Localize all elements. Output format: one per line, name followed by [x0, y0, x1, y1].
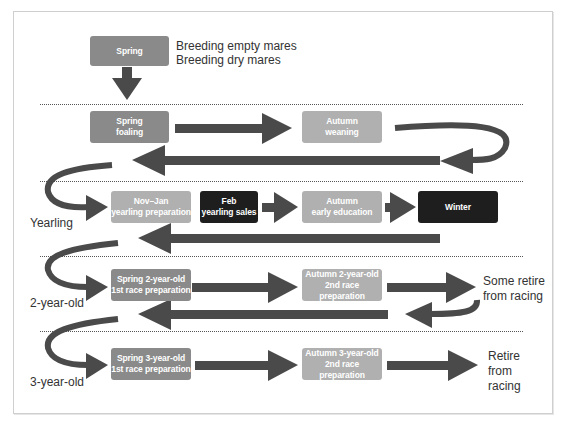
- box-line2: 2nd race preparation: [302, 280, 382, 302]
- arrow-left-icon: [138, 223, 440, 254]
- curved-arrowhead-icon: [440, 148, 473, 174]
- box-line2: weaning: [325, 127, 358, 138]
- box-spring-2yo: Spring 2-year-old 1st race preparation: [111, 269, 191, 301]
- box-spring-foaling: Spring foaling: [90, 111, 169, 143]
- box-yearling-preparation: Nov–Jan yearling preparation: [111, 191, 191, 223]
- row-label-3yo: 3-year-old: [30, 376, 84, 389]
- curved-arrow-icon: [395, 125, 506, 160]
- curved-arrowhead-icon: [86, 353, 108, 379]
- row-label-2yo: 2-year-old: [30, 297, 84, 310]
- box-line2: 2nd race preparation: [302, 359, 382, 381]
- box-line2: 1st race preparation: [111, 364, 190, 375]
- box-autumn-3yo: Autumn 3-year-old 2nd race preparation: [302, 348, 382, 380]
- box-autumn-2yo: Autumn 2-year-old 2nd race preparation: [302, 269, 382, 301]
- box-line1: Nov–Jan: [134, 196, 169, 207]
- box-line1: Autumn: [326, 116, 358, 127]
- breeding-note: Breeding empty mares Breeding dry mares: [176, 39, 297, 67]
- box-yearling-sales: Feb yearling sales: [200, 191, 258, 223]
- arrow-right-icon: [195, 350, 298, 381]
- curved-arrow-icon: [48, 165, 112, 207]
- box-line1: Autumn 2-year-old: [305, 269, 378, 280]
- box-line1: Spring: [116, 116, 142, 127]
- box-line2: 1st race preparation: [111, 285, 190, 296]
- box-line1: Spring 3-year-old: [117, 353, 185, 364]
- box-line2: foaling: [116, 127, 143, 138]
- arrow-right-icon: [385, 192, 416, 223]
- box-label: Spring: [116, 46, 142, 57]
- arrow-right-icon: [387, 350, 478, 381]
- arrow-right-icon: [387, 272, 476, 303]
- arrow-right-icon: [175, 113, 292, 144]
- outcome-retire: Retire from racing: [488, 349, 521, 394]
- note-line: Breeding empty mares: [176, 39, 297, 53]
- box-line1: Winter: [445, 202, 471, 213]
- box-line1: Autumn: [326, 196, 358, 207]
- curved-arrow-icon: [48, 319, 118, 365]
- outcome-line: Some retire: [483, 274, 545, 289]
- box-line1: Spring 2-year-old: [117, 274, 185, 285]
- curved-arrow-icon: [48, 243, 118, 287]
- arrow-down-icon: [112, 67, 142, 100]
- box-spring-3yo: Spring 3-year-old 1st race preparation: [111, 348, 191, 380]
- curved-arrowhead-icon: [86, 275, 108, 301]
- arrow-right-icon: [192, 272, 298, 303]
- arrow-right-icon: [262, 192, 298, 223]
- arrow-left-icon: [138, 299, 388, 330]
- box-spring-breeding: Spring: [90, 36, 169, 66]
- box-winter: Winter: [418, 191, 498, 223]
- curved-arrow-icon: [430, 300, 477, 314]
- box-autumn-weaning: Autumn weaning: [302, 111, 382, 143]
- box-line1: Feb: [222, 196, 237, 207]
- outcome-line: from: [488, 364, 521, 379]
- row-label-yearling: Yearling: [30, 217, 73, 230]
- outcome-line: Retire: [488, 349, 521, 364]
- outcome-some-retire: Some retire from racing: [483, 274, 545, 304]
- box-line1: Autumn 3-year-old: [305, 348, 378, 359]
- curved-arrowhead-icon: [86, 195, 108, 221]
- outcome-line: from racing: [483, 289, 545, 304]
- box-early-education: Autumn early education: [302, 191, 382, 223]
- box-line2: yearling sales: [202, 207, 257, 218]
- box-line2: yearling preparation: [111, 207, 191, 218]
- arrow-left-icon: [132, 145, 440, 176]
- box-line2: early education: [312, 207, 373, 218]
- note-line: Breeding dry mares: [176, 53, 297, 67]
- outcome-line: racing: [488, 379, 521, 394]
- curved-arrowhead-icon: [405, 302, 432, 328]
